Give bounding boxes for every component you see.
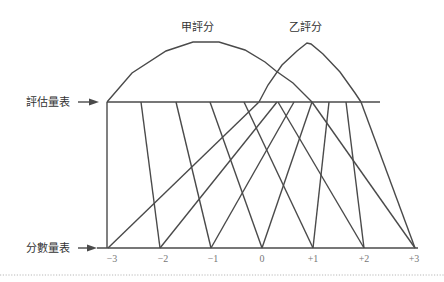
evaluation-scale-label: 評估量表 [26,95,70,109]
arrow-right-icon [78,245,97,252]
curve-b-label: 乙評分 [289,20,322,34]
tick-label: 0 [260,253,265,264]
tick-label: +3 [409,253,420,264]
mapping-lines [108,102,415,248]
curve-b [259,43,361,102]
tick-label: −2 [158,253,169,264]
tick-label: −3 [107,253,118,264]
arrow-right-icon [78,99,99,106]
tick-label: −1 [208,253,219,264]
tick-label: +2 [359,253,370,264]
tick-label: +1 [308,253,319,264]
score-scale-label: 分數量表 [26,241,70,255]
curve-a-label: 甲評分 [181,20,214,34]
rating-scale-diagram: 甲評分 乙評分 評估量表 分數量表 −3 −2 −1 0 +1 +2 +3 [0,0,444,282]
curve-a [107,42,312,102]
